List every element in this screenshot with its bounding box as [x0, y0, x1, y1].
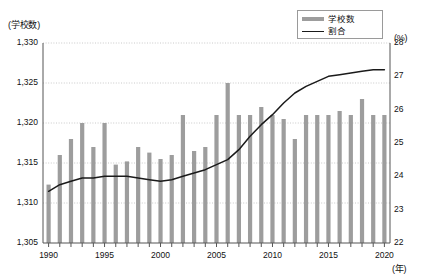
y-axis-left-tick: 1,330 [4, 37, 38, 47]
y-axis-right-tick: 25 [394, 137, 403, 147]
y-axis-right-tick: 22 [394, 237, 403, 247]
legend-label-schools: 学校数 [328, 14, 354, 24]
y-axis-left-tick: 1,305 [4, 237, 38, 247]
x-axis-tick: 2005 [197, 250, 237, 260]
x-axis-tick: 2010 [252, 250, 292, 260]
y-axis-right-tick: 24 [394, 170, 403, 180]
bar-series [47, 83, 387, 243]
chart-container: (学校数) (%) (年) 学校数 割合 1,3051,3101,3151,32… [0, 0, 428, 280]
bar-swatch-icon [302, 17, 324, 21]
chart-plot-area [0, 0, 428, 280]
y-axis-right-tick: 23 [394, 204, 403, 214]
legend-item-schools: 学校数 [302, 13, 379, 25]
y-axis-left-tick: 1,325 [4, 77, 38, 87]
legend-item-ratio: 割合 [302, 25, 379, 37]
y-axis-left-tick: 1,315 [4, 157, 38, 167]
x-axis-tick: 2015 [308, 250, 348, 260]
line-swatch-icon [302, 31, 324, 32]
y-axis-right-tick: 28 [394, 37, 403, 47]
chart-legend: 学校数 割合 [297, 10, 383, 39]
x-axis-tick: 2000 [141, 250, 181, 260]
x-tick-marks [49, 243, 385, 247]
x-axis-tick: 1995 [85, 250, 125, 260]
y-axis-left-tick: 1,320 [4, 117, 38, 127]
x-axis-tick: 2020 [364, 250, 404, 260]
x-axis-tick: 1990 [29, 250, 69, 260]
y-axis-right-tick: 26 [394, 104, 403, 114]
legend-label-ratio: 割合 [328, 26, 346, 36]
y-axis-left-tick: 1,310 [4, 197, 38, 207]
x-axis-unit-label: (年) [392, 262, 406, 275]
left-axis-unit-label: (学校数) [8, 18, 40, 31]
y-axis-right-tick: 27 [394, 70, 403, 80]
